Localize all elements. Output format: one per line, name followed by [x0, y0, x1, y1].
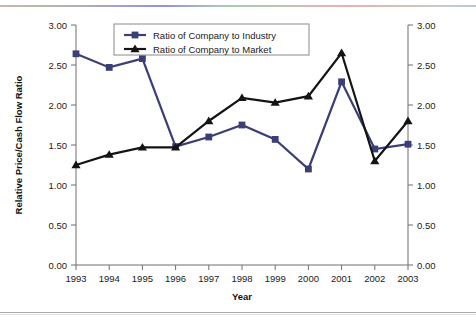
legend-entry-label: Ratio of Company to Industry — [153, 30, 276, 41]
y-axis-right-tick-label: 2.00 — [417, 100, 436, 111]
scan-artifact-top-rule — [0, 5, 476, 7]
x-axis-tick-label: 1996 — [165, 273, 186, 284]
legend-entry-label: Ratio of Company to Market — [153, 44, 272, 55]
data-point-marker — [239, 122, 246, 129]
y-axis-left-tick-label: 1.50 — [49, 140, 68, 151]
y-axis-right-tick-labels: 0.000.501.001.502.002.503.00 — [417, 20, 436, 271]
legend-swatch-marker — [132, 32, 139, 39]
data-point-marker — [403, 117, 412, 125]
x-axis-tick-label: 2003 — [397, 273, 418, 284]
y-axis-left-tick-labels: 0.000.501.001.502.002.503.00 — [49, 20, 68, 271]
y-axis-left-ticks — [71, 25, 76, 265]
line-chart-figure: 0.000.501.001.502.002.503.00 0.000.501.0… — [0, 8, 476, 308]
data-point-marker — [405, 141, 412, 148]
data-point-marker — [106, 64, 113, 71]
data-point-marker — [205, 134, 212, 141]
y-axis-right-tick-label: 0.50 — [417, 220, 436, 231]
x-axis-tick-label: 1999 — [265, 273, 286, 284]
data-point-marker — [338, 78, 345, 85]
y-axis-left-tick-label: 1.00 — [49, 180, 68, 191]
x-axis-tick-label: 1994 — [99, 273, 120, 284]
data-point-marker — [305, 166, 312, 173]
data-point-marker — [337, 49, 346, 57]
scan-artifact-bottom-rule — [0, 312, 476, 313]
y-axis-right-tick-label: 0.00 — [417, 260, 436, 271]
x-axis-tick-label: 2001 — [331, 273, 352, 284]
x-axis-tick-label: 1993 — [65, 273, 86, 284]
y-axis-right-tick-label: 3.00 — [417, 20, 436, 31]
x-axis-tick-labels: 1993199419951996199719981999200020012002… — [65, 273, 418, 284]
y-axis-left-tick-label: 0.50 — [49, 220, 68, 231]
x-axis-tick-label: 1998 — [231, 273, 252, 284]
y-axis-title: Relative Price/Cash Flow Ratio — [13, 75, 24, 214]
x-axis-tick-label: 1997 — [198, 273, 219, 284]
x-axis-tick-label: 1995 — [132, 273, 153, 284]
chart-plot-area: 0.000.501.001.502.002.503.00 0.000.501.0… — [0, 8, 476, 308]
data-point-marker — [272, 136, 279, 143]
y-axis-right-tick-label: 1.50 — [417, 140, 436, 151]
chart-legend[interactable]: Ratio of Company to IndustryRatio of Com… — [114, 24, 309, 55]
x-axis-tick-label: 2002 — [364, 273, 385, 284]
scan-artifact-bottom-rule-secondary — [0, 314, 476, 315]
data-point-marker — [73, 50, 80, 57]
x-axis-ticks — [76, 265, 408, 270]
y-axis-right-tick-label: 1.00 — [417, 180, 436, 191]
y-axis-left-tick-label: 2.50 — [49, 60, 68, 71]
y-axis-right-tick-label: 2.50 — [417, 60, 436, 71]
series-line-market — [76, 53, 408, 165]
chart-axes — [76, 25, 408, 265]
chart-series-group — [71, 49, 412, 173]
y-axis-left-tick-label: 0.00 — [49, 260, 68, 271]
data-point-marker — [139, 55, 146, 62]
y-axis-left-tick-label: 2.00 — [49, 100, 68, 111]
x-axis-title: Year — [232, 291, 252, 302]
x-axis-tick-label: 2000 — [298, 273, 319, 284]
y-axis-left-tick-label: 3.00 — [49, 20, 68, 31]
